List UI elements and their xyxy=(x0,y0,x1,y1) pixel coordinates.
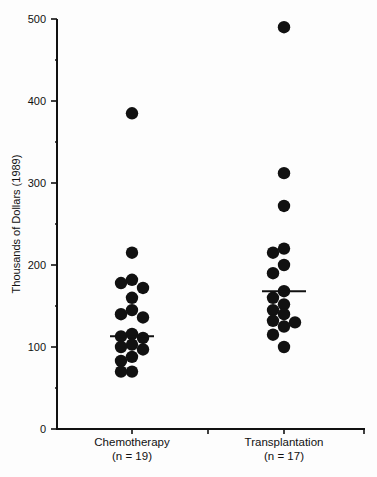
data-point xyxy=(126,274,138,286)
data-point xyxy=(126,338,138,350)
data-point xyxy=(126,247,138,259)
dot-plot-chart: 0100200300400500 Thousands of Dollars (1… xyxy=(0,0,377,477)
category-label: Transplantation xyxy=(245,436,324,448)
data-point xyxy=(267,267,279,279)
data-points xyxy=(115,21,301,378)
y-tick-label: 200 xyxy=(28,259,46,271)
data-point xyxy=(126,292,138,304)
data-point xyxy=(126,328,138,340)
data-point xyxy=(278,341,290,353)
category-label-transplantation: Transplantation (n = 17) xyxy=(245,436,324,462)
y-tick-label: 100 xyxy=(28,341,46,353)
data-point xyxy=(278,308,290,320)
y-ticks: 0100200300400500 xyxy=(28,13,57,435)
data-point xyxy=(278,242,290,254)
data-point xyxy=(137,332,149,344)
data-point xyxy=(278,167,290,179)
data-point xyxy=(137,282,149,294)
data-point xyxy=(278,21,290,33)
y-tick-label: 300 xyxy=(28,177,46,189)
data-point xyxy=(126,107,138,119)
data-point xyxy=(267,329,279,341)
data-point xyxy=(126,365,138,377)
data-point xyxy=(137,311,149,323)
data-point xyxy=(115,365,127,377)
data-point xyxy=(289,316,301,328)
category-label-chemotherapy: Chemotherapy (n = 19) xyxy=(94,436,170,462)
category-sublabel: (n = 19) xyxy=(112,450,152,462)
data-point xyxy=(267,304,279,316)
data-point xyxy=(278,259,290,271)
data-point xyxy=(126,351,138,363)
data-point xyxy=(267,315,279,327)
data-point xyxy=(115,277,127,289)
data-point xyxy=(126,304,138,316)
data-point xyxy=(137,343,149,355)
data-point xyxy=(115,355,127,367)
category-label: Chemotherapy xyxy=(94,436,170,448)
data-point xyxy=(115,308,127,320)
y-tick-label: 0 xyxy=(40,423,46,435)
y-axis-title: Thousands of Dollars (1989) xyxy=(10,155,22,294)
data-point xyxy=(267,292,279,304)
data-point xyxy=(267,247,279,259)
data-point xyxy=(278,200,290,212)
category-sublabel: (n = 17) xyxy=(264,450,304,462)
data-point xyxy=(115,341,127,353)
data-point xyxy=(278,320,290,332)
y-tick-label: 400 xyxy=(28,95,46,107)
y-tick-label: 500 xyxy=(28,13,46,25)
